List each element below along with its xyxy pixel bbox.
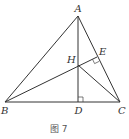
label-a: A — [74, 3, 82, 14]
segment-hc — [78, 65, 120, 102]
label-d: D — [74, 105, 83, 116]
label-c: C — [118, 105, 126, 116]
triangle-diagram: A B C D E H 图 7 — [0, 0, 129, 139]
label-h: H — [66, 54, 76, 65]
right-angle-mark-e — [93, 59, 100, 63]
segment-be — [5, 57, 97, 102]
right-angle-mark-d — [78, 97, 83, 102]
label-b: B — [0, 105, 8, 116]
segment-ac — [78, 16, 120, 102]
figure-caption: 图 7 — [50, 124, 68, 134]
label-e: E — [98, 46, 107, 57]
